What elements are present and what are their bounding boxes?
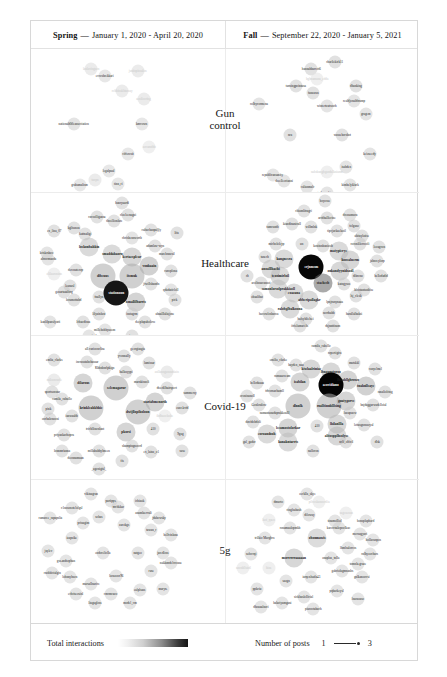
node-label: arrithallierine <box>318 216 335 220</box>
node-label: dibeuus <box>97 274 109 278</box>
node-label: millebobbyazem <box>94 328 115 332</box>
column-header-fall: Fall — September 22, 2020 - January 5, 2… <box>225 21 419 49</box>
node-label: millababbylmeen <box>88 449 110 453</box>
node-label: mvhkkar <box>113 505 124 509</box>
node-label: dilarous <box>77 381 89 385</box>
node-label: bollacanpos <box>366 538 381 542</box>
node-label: rlt <box>246 274 249 278</box>
node-label: kanakntarrts <box>278 440 298 444</box>
legend-interactions: Total interactions <box>47 624 188 662</box>
node-label: ruse <box>149 569 154 573</box>
node-label: kattnaligi <box>79 232 91 236</box>
node-label: model_cm <box>123 601 136 605</box>
node-label: yvonnally <box>118 354 131 358</box>
node-label: jaredloss <box>157 551 168 555</box>
node-label: oerklla_skye <box>299 492 315 496</box>
node-label: ronamaalopmkb <box>280 526 301 530</box>
node-label: szlsvcqi <box>246 552 256 556</box>
node-label: laoi_qaen <box>262 518 274 522</box>
panel-gun-control-spring: lanlavingsonjustinpinsaloneccoshrekkarir… <box>31 49 225 192</box>
node-label: msrrrrrraaaaan <box>282 556 306 560</box>
node-label: kertacsplcar <box>123 255 142 259</box>
node-label: roalltinnhlllsing <box>317 404 341 408</box>
node-label: canyelmel <box>369 367 382 371</box>
node-label: kiandinanicall <box>283 222 301 226</box>
node-label: cnlbyzochars <box>361 552 378 556</box>
node-label: luoapuow <box>344 411 357 415</box>
panel-covid-19-spring: all.varioonclinegeorgiasgiayvonnallyemli… <box>31 336 225 479</box>
node-label: oroninanoll <box>240 394 255 398</box>
node-label: matypierye <box>330 249 347 253</box>
node-label: acolinnacasnoi <box>251 281 270 285</box>
node-label: marebnnosil <box>159 252 175 256</box>
panel-covid-19-fall: camila_cabelloropertigiraemilia_clarkeha… <box>225 336 419 479</box>
column-header-fall-season: Fall <box>243 31 257 40</box>
node-label: marsallnarice <box>83 582 100 586</box>
node-label: dlnnlk <box>293 404 303 408</box>
node-label: katngysoe <box>338 282 351 286</box>
node-label: erjnnssm <box>304 265 318 269</box>
node-label: anoalllhachi <box>261 267 279 271</box>
node-label: studemocktrump <box>316 191 337 192</box>
node-label: obonmawis <box>309 536 326 540</box>
legend-interactions-label: Total interactions <box>47 639 104 648</box>
node-label: sobas <box>95 515 102 519</box>
node-label: sagoaenan <box>340 511 353 515</box>
node-label: genartaaalorg <box>55 290 72 294</box>
node-label: isabden <box>341 165 351 169</box>
node-label: kangnesra <box>276 257 292 261</box>
node-label: curoplona <box>164 269 177 273</box>
node-label: davidohdoli <box>246 420 261 424</box>
node-label: vonhaain <box>142 264 156 268</box>
node-label: olilaaroninn <box>47 272 62 276</box>
node-label: kriskrsboo <box>40 251 53 255</box>
node-label: all.variooncline <box>85 347 105 351</box>
panel-5g-fall: oerklla_skyedmurtopilvoskunoortliacingls… <box>225 480 419 624</box>
node-label: dhanking <box>350 84 362 88</box>
node-label: echriseosinl <box>68 592 83 596</box>
node-label: cloeleenagui <box>120 213 136 217</box>
node-label: dressamaca <box>343 213 358 217</box>
node-label: pqbarkeysl <box>330 589 344 593</box>
node-label: aenilooring <box>136 97 151 101</box>
panel-row-5g: vikinagranpartippsicbiaakc1snsonotelolgs… <box>31 480 419 624</box>
node-label: iarqenlsatla43 <box>302 575 320 579</box>
figure-container: Spring — January 1, 2020 - April 20, 202… <box>30 20 418 661</box>
node-label: morsugyari <box>353 532 368 536</box>
panel-row-gun-control: lanlavingsonjustinpinsaloneccoshrekkarir… <box>31 49 419 193</box>
node-label: smaddahaoru <box>102 252 123 256</box>
node-label: priyankachopra <box>54 433 74 437</box>
node-label: sazgn <box>282 579 289 583</box>
node-label: republicansanity <box>262 173 283 177</box>
node-label: stachesb <box>317 281 330 285</box>
column-header-spring-range: January 1, 2020 - April 20, 2020 <box>92 31 203 40</box>
node-label: qdaduticloll <box>163 288 178 292</box>
node-label: deeplupaholove <box>135 320 155 324</box>
node-label: gal_gador <box>243 440 256 444</box>
node-label: colbycormena <box>250 102 268 106</box>
node-label: namantanadaprakkoalll <box>260 411 290 415</box>
node-label: abitaylatise <box>355 234 370 238</box>
node-label: natgeo <box>133 551 142 555</box>
node-label: deonnamaan <box>68 456 84 460</box>
node-label: jaylev <box>45 549 53 553</box>
panel-row-covid-19: all.varioonclinegeorgiasgiayvonnallyemli… <box>31 336 419 480</box>
node-label: leoagcon <box>373 245 385 249</box>
column-header-spring-separator: — <box>81 31 89 40</box>
node-label: hins <box>266 566 271 570</box>
node-label: teooimirloil <box>272 274 289 278</box>
legend-posts-min: 1 <box>322 639 326 648</box>
node-label: theelleorianni <box>275 179 293 183</box>
node-label: naklamdelcrousa <box>160 561 182 565</box>
node-label: emilia_clarke <box>270 358 287 362</box>
node-label: michololeyp <box>268 242 284 246</box>
node-label: instagrm <box>126 312 137 316</box>
node-label: tipcjackaelaoil <box>327 229 346 233</box>
node-label: loramottabd <box>66 298 81 302</box>
node-label: 410 <box>151 427 156 431</box>
node-label: marnkisnoli <box>134 380 149 384</box>
node-label: lifa <box>174 231 178 235</box>
node-label: dteedilhairspect <box>157 386 177 390</box>
node-label: gragem <box>361 112 371 116</box>
node-label: un <box>300 242 303 246</box>
